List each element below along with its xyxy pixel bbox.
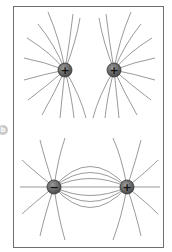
charge-bottom-negative: − [47,180,61,194]
svg-text:+: + [109,64,118,77]
svg-text:+: + [60,64,69,77]
electric-field-figure: b [0,0,172,252]
svg-text:−: − [49,181,58,194]
top-panel-field-lines [24,12,155,118]
field-lines-diagram: + + − + [0,0,172,252]
bottom-panel-field-lines [20,138,160,240]
charge-bottom-positive: + [120,180,134,194]
charge-top-right: + [107,63,121,77]
svg-text:+: + [122,181,131,194]
charge-top-left: + [58,63,72,77]
